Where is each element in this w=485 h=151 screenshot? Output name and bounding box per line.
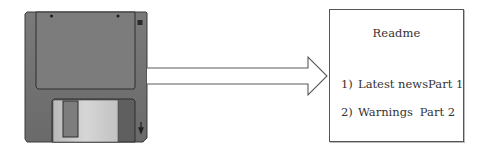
readme-item-number: 2) — [341, 105, 358, 119]
readme-item: 2)Warnings Part 2 — [341, 105, 455, 119]
readme-item-text: Warnings — [358, 105, 413, 119]
arrow-right-icon — [147, 57, 327, 95]
floppy-hole-left — [50, 15, 53, 18]
readme-item-label: 1)Latest news — [341, 77, 428, 91]
readme-item-part: Part 1 — [428, 77, 463, 91]
diagram-canvas: Readme 1)Latest news Part 1 2)Warnings P… — [0, 0, 485, 151]
readme-item-text: Latest news — [358, 77, 428, 91]
readme-item-number: 1) — [341, 77, 358, 91]
readme-item-part: Part 2 — [420, 105, 455, 119]
readme-title: Readme — [330, 26, 463, 40]
readme-document: Readme 1)Latest news Part 1 2)Warnings P… — [329, 9, 464, 142]
write-protect-tab — [138, 20, 143, 25]
floppy-hole-right — [117, 15, 120, 18]
readme-item: 1)Latest news Part 1 — [341, 77, 455, 91]
floppy-disk-icon — [25, 12, 147, 142]
floppy-shutter-window — [63, 101, 78, 137]
readme-item-label: 2)Warnings — [341, 105, 413, 119]
floppy-label-area — [36, 12, 135, 89]
